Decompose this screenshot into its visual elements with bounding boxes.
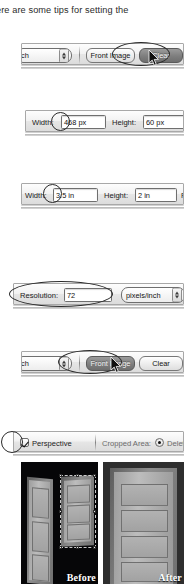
delete-label: Delete — [167, 440, 184, 448]
width-field-in[interactable]: 3.5 in — [53, 188, 98, 202]
corrected-door-inset — [121, 484, 168, 506]
crop-selection-box[interactable] — [60, 475, 96, 548]
page-root: ere are some tips for setting the ch Fro… — [0, 0, 184, 584]
height-value-px: 60 px — [146, 118, 164, 127]
height-field-px[interactable]: 60 px — [143, 115, 184, 129]
panel-rule-4 — [13, 307, 184, 309]
inch-size-inner: Width: 3.5 in Height: 2 in F — [22, 184, 183, 204]
toolbar-divider — [79, 354, 80, 372]
resolution-units-value: pixels/inch — [126, 291, 161, 300]
inch-size-panel: Width: 3.5 in Height: 2 in F — [21, 183, 184, 205]
options-bar-clear-inner: ch Front Image Clear — [22, 44, 183, 64]
resolution-value: 72 — [67, 291, 75, 300]
crop-handle[interactable] — [93, 546, 96, 549]
crop-handle[interactable] — [93, 474, 96, 477]
resolution-units-popup[interactable]: pixels/inch — [121, 287, 184, 303]
width-label-in: Width: — [25, 192, 47, 200]
resolution-field[interactable]: 72 — [64, 288, 112, 302]
clear-button-label: Clear — [152, 359, 170, 368]
pixel-size-panel: Width: 468 px Height: 60 px — [25, 110, 184, 132]
cropped-area-label: Cropped Area: — [102, 440, 151, 448]
panel-rule-5 — [21, 375, 184, 377]
crop-handle[interactable] — [59, 546, 62, 549]
clear-button[interactable]: Clear — [139, 48, 183, 63]
intro-paragraph: ere are some tips for setting the — [0, 4, 184, 16]
crop-handle[interactable] — [59, 474, 62, 477]
before-caption: Before — [67, 572, 96, 584]
front-image-button[interactable]: Front Image — [86, 48, 135, 63]
width-label-px: Width: — [32, 119, 54, 127]
crop-handle[interactable] — [59, 510, 62, 513]
perspective-checkbox[interactable] — [20, 438, 29, 447]
unit-popup-clear-panel[interactable]: ch — [21, 48, 72, 63]
width-value-px: 468 px — [64, 118, 86, 127]
panel-rule-3 — [21, 207, 184, 209]
clear-button-label: Clear — [152, 51, 170, 60]
panel-rule-1 — [21, 67, 184, 69]
height-field-in[interactable]: 2 in — [135, 188, 177, 202]
after-photo: After — [103, 462, 184, 584]
crop-handle[interactable] — [76, 474, 79, 477]
clear-button[interactable]: Clear — [139, 356, 183, 371]
width-field-px[interactable]: 468 px — [61, 115, 106, 129]
front-image-button-label: Front Image — [91, 359, 131, 368]
crop-handle[interactable] — [76, 546, 79, 549]
toolbar-divider — [79, 46, 80, 64]
before-after-figure: Before After — [21, 462, 184, 584]
panel-rule-2 — [25, 134, 184, 136]
open-door-inset — [32, 554, 49, 581]
stepper-arrows-icon[interactable] — [172, 288, 182, 303]
unit-popup-value: ch — [21, 51, 29, 60]
options-bar-front-image-panel: ch Front Image Clear — [21, 351, 184, 373]
corrected-door-inset — [121, 536, 168, 558]
pixel-size-inner: Width: 468 px Height: 60 px — [26, 111, 183, 131]
perspective-label: Perspective — [32, 440, 72, 448]
crop-options-panel: Perspective Cropped Area: Delete — [13, 431, 184, 452]
front-image-button[interactable]: Front Image — [86, 356, 135, 371]
width-value-in: 3.5 in — [56, 191, 74, 200]
unit-popup-front-image-panel[interactable]: ch — [21, 356, 72, 371]
options-bar-front-image-inner: ch Front Image Clear — [22, 352, 183, 372]
resolution-label: Resolution: — [20, 292, 58, 300]
delete-radio[interactable] — [155, 438, 164, 447]
before-photo: Before — [21, 462, 98, 584]
height-label-in: Height: — [104, 192, 128, 200]
height-value-in: 2 in — [138, 191, 150, 200]
panel-rule-6 — [13, 454, 184, 456]
resolution-inner: Resolution: 72 pixels/inch — [14, 284, 183, 304]
corrected-door-inset — [121, 510, 168, 532]
options-bar-clear-panel: ch Front Image Clear — [21, 43, 184, 65]
unit-popup-value: ch — [21, 359, 29, 368]
open-door-inset — [32, 521, 49, 552]
after-caption: After — [158, 572, 182, 584]
open-door-inset — [32, 487, 49, 518]
front-image-button-label: Front Image — [91, 51, 131, 60]
toolbar-divider — [95, 434, 96, 451]
crop-options-inner: Perspective Cropped Area: Delete — [14, 432, 183, 451]
stepper-arrows-icon[interactable] — [59, 356, 69, 371]
crop-handle[interactable] — [93, 510, 96, 513]
height-label-px: Height: — [112, 119, 136, 127]
stepper-arrows-icon[interactable] — [59, 48, 69, 63]
resolution-panel: Resolution: 72 pixels/inch — [13, 283, 184, 305]
trailing-label-in: F — [181, 192, 184, 200]
